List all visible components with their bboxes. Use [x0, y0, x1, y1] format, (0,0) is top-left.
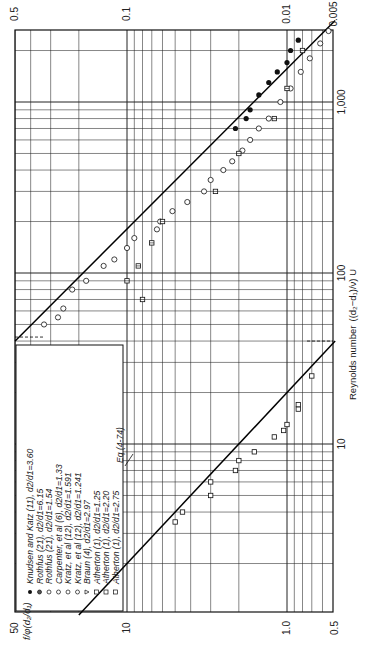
data-point: [272, 435, 276, 439]
data-point: [307, 56, 312, 61]
y-axis-label: f/φ(d₂/d₁): [21, 602, 32, 640]
legend-item: Rothfus (21), d2/d1=1.54: [44, 488, 54, 584]
data-point: [275, 69, 280, 74]
tick-label: 0.1: [121, 7, 132, 21]
tick-label: 1.0: [281, 621, 292, 635]
tick-label: 1,000: [336, 89, 347, 114]
tick-label: 50: [9, 622, 20, 634]
data-point: [124, 245, 129, 250]
eq-label: Eq (4-74): [115, 427, 125, 463]
data-point: [170, 209, 175, 214]
data-point: [112, 257, 117, 262]
data-point: [55, 315, 60, 320]
tick-label: 10: [121, 622, 132, 634]
data-point: [84, 278, 89, 283]
eq-annotation: Eq (4-74): [115, 427, 133, 466]
data-point: [281, 428, 285, 432]
data-point: [248, 107, 253, 112]
data-point: [288, 48, 293, 53]
legend-item: Carpenter, et al (6), d2/d1=1.33: [54, 464, 64, 584]
data-point: [208, 177, 213, 182]
data-point: [284, 60, 289, 65]
data-point: [326, 28, 331, 33]
data-point: [154, 227, 159, 232]
data-point: [244, 116, 249, 121]
data-point: [256, 126, 261, 131]
data-point: [230, 159, 235, 164]
data-point: [41, 322, 46, 327]
data-point: [278, 99, 283, 104]
tick-label: 0.01: [281, 4, 292, 24]
data-point: [173, 520, 177, 524]
data-point: [248, 137, 253, 142]
data-point: [256, 92, 261, 97]
data-point: [180, 510, 184, 514]
legend-item: Kratz, et al (12), d2/d1=1.241: [73, 472, 83, 584]
data-point: [208, 480, 212, 484]
tick-label: 10: [336, 438, 347, 450]
data-point: [318, 41, 323, 46]
legend-item: Knudsen and Katz (11), d2/d1=3.60: [25, 448, 35, 584]
legend-item: Rothfus (21), d2/d1=6.15: [35, 488, 45, 584]
data-point: [296, 407, 300, 411]
x-axis-label: Reynolds number((d₂−d₁)/ν) U: [347, 269, 358, 400]
data-point: [237, 458, 241, 462]
data-point: [221, 167, 226, 172]
data-point: [101, 263, 106, 268]
data-point: [208, 493, 212, 497]
data-point: [61, 306, 66, 311]
tick-label: 0.5: [329, 621, 340, 635]
legend-item: Kratz, et al (12), d2/d1=1.591: [63, 472, 73, 584]
data-point: [296, 402, 300, 406]
tick-label: 100: [336, 264, 347, 281]
rotated-loglog-chart: 0.50.10.010.00550101.00.5101001,000 Knud…: [0, 0, 369, 651]
tick-label: 0.005: [328, 1, 339, 26]
data-point: [296, 38, 301, 43]
data-point: [310, 374, 314, 378]
legend-item: Atherton (1), d2/d1=1.25: [92, 490, 102, 585]
data-point: [233, 468, 237, 472]
data-point: [132, 235, 137, 240]
data-point: [201, 189, 206, 194]
data-point: [298, 69, 303, 74]
data-point: [252, 450, 256, 454]
legend-item: Atherton (1), d2/d1=2.20: [101, 490, 111, 585]
legend-item: Braun (4), d2/d1=2.97: [82, 499, 92, 584]
data-point: [266, 116, 271, 121]
legend-item: Atherton (1), d2/d1=2.75: [111, 490, 121, 585]
tick-label: 0.5: [9, 7, 20, 21]
data-point: [233, 126, 238, 131]
data-point: [70, 287, 75, 292]
data-point: [185, 199, 190, 204]
data-point: [285, 422, 289, 426]
data-point: [266, 80, 271, 85]
